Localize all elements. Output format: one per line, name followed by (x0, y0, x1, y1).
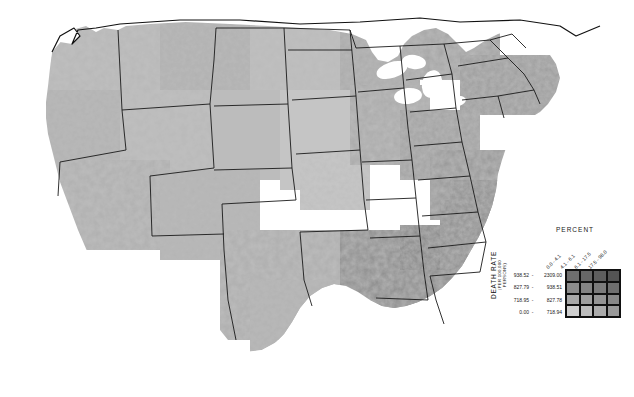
legend-swatch-r2-c1 (566, 282, 580, 294)
legend-row-3-dash: - (529, 294, 536, 306)
legend-swatch-r2-c2 (580, 282, 594, 294)
legend-row-3-high: 827.78 (536, 294, 562, 306)
legend-row-label-1: 938.52-2309.00 (507, 269, 562, 281)
legend-row-labels: 938.52-2309.00 827.79-938.51 718.95-827.… (500, 269, 562, 318)
legend-column-labels: 0.0 - 4.1 4.1 - 6.1 6.1 - 17.5 17.5 - 98… (547, 238, 633, 270)
legend-swatch-r1-c1 (566, 270, 580, 282)
legend-row-3-low: 718.95 (507, 294, 529, 306)
legend-percent-title: PERCENT (556, 226, 594, 233)
legend-swatch-r1-c4 (607, 270, 621, 282)
legend-row-1-high: 2309.00 (536, 269, 562, 281)
legend-row-4-high: 718.94 (536, 306, 562, 318)
legend-row-4-dash: - (529, 306, 536, 318)
legend-row-1-dash: - (529, 269, 536, 281)
us-county-map (0, 0, 634, 397)
legend-color-grid (565, 269, 621, 318)
legend-column-label-1: 0.0 - 4.1 (545, 253, 562, 270)
legend-swatch-r4-c4 (607, 305, 621, 317)
legend-swatch-r2-c3 (593, 282, 607, 294)
legend-row-label-3: 718.95-827.78 (507, 294, 562, 306)
legend-row-label-4: 0.00-718.94 (507, 306, 562, 318)
legend-swatch-r4-c1 (566, 305, 580, 317)
legend-row-2-dash: - (529, 281, 536, 293)
legend-swatch-r2-c4 (607, 282, 621, 294)
legend-swatch-r3-c2 (580, 294, 594, 306)
legend-row-4-low: 0.00 (507, 306, 529, 318)
legend-row-2-high: 938.51 (536, 281, 562, 293)
legend-swatch-r1-c2 (580, 270, 594, 282)
legend-swatch-r3-c1 (566, 294, 580, 306)
choropleth-figure: PERCENT 0.0 - 4.1 4.1 - 6.1 6.1 - 17.5 1… (0, 0, 634, 397)
legend-column-label-2: 4.1 - 6.1 (559, 253, 576, 270)
legend-swatch-r3-c4 (607, 294, 621, 306)
legend-row-1-low: 938.52 (507, 269, 529, 281)
bivariate-legend: PERCENT 0.0 - 4.1 4.1 - 6.1 6.1 - 17.5 1… (487, 226, 634, 326)
legend-row-label-2: 827.79-938.51 (507, 281, 562, 293)
legend-swatch-r4-c2 (580, 305, 594, 317)
legend-swatch-r3-c3 (593, 294, 607, 306)
legend-swatch-r4-c3 (593, 305, 607, 317)
legend-swatch-r1-c3 (593, 270, 607, 282)
legend-row-2-low: 827.79 (507, 281, 529, 293)
legend-death-rate-title: DEATH RATE (490, 251, 497, 300)
legend-column-label-4: 17.5 - 98.0 (587, 249, 608, 270)
